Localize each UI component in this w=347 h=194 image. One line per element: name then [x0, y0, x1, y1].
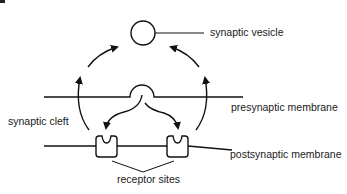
- receptor-right: [167, 136, 188, 157]
- synapse-diagram: synaptic vesicle presynaptic membrane sy…: [0, 0, 347, 194]
- label-receptor-sites: receptor sites: [117, 174, 180, 185]
- recycle-arrow-left-upper: [88, 47, 117, 67]
- recycle-arrow-left-lower: [78, 78, 89, 130]
- release-arrow-left: [106, 95, 142, 128]
- recycle-arrow-right-lower: [196, 78, 207, 130]
- receptor-left: [96, 136, 117, 157]
- label-presynaptic-membrane: presynaptic membrane: [231, 102, 338, 113]
- postsynaptic-membrane-right: [188, 146, 232, 150]
- label-synaptic-cleft: synaptic cleft: [8, 116, 69, 127]
- synaptic-vesicle: [131, 21, 155, 45]
- label-synaptic-vesicle: synaptic vesicle: [210, 27, 284, 38]
- release-arrow-right: [145, 103, 178, 128]
- presynaptic-membrane: [44, 85, 243, 97]
- receptor-sites-leader: [112, 161, 174, 172]
- diagram-canvas: [0, 0, 347, 194]
- recycle-arrow-right-upper: [171, 47, 199, 67]
- label-postsynaptic-membrane: postsynaptic membrane: [230, 149, 341, 160]
